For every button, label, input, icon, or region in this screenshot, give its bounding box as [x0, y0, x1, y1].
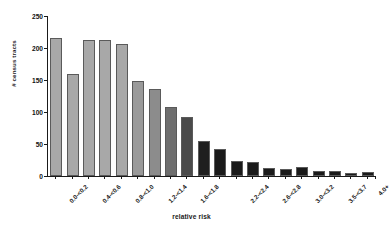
y-tick-label: 0 — [39, 173, 43, 180]
bar — [83, 40, 95, 176]
bar — [329, 171, 341, 176]
x-tick-mark — [318, 176, 319, 179]
y-axis-title: # census tracts — [10, 19, 17, 109]
bar — [247, 162, 259, 176]
bar — [67, 74, 79, 176]
x-tick-mark — [88, 176, 89, 179]
bar — [181, 117, 193, 176]
x-tick-mark — [268, 176, 269, 179]
x-tick-label: 1.2-<1.4 — [166, 183, 187, 204]
x-tick-label: 2.6-<2.8 — [281, 183, 302, 204]
x-tick-mark — [236, 176, 237, 179]
bar — [280, 169, 292, 176]
x-tick-mark — [219, 176, 220, 179]
y-tick-label: 250 — [32, 13, 43, 20]
y-tick-mark — [44, 16, 47, 17]
x-tick-mark — [350, 176, 351, 179]
x-tick-mark — [104, 176, 105, 179]
x-tick-label: 4.0+ — [376, 183, 390, 197]
x-tick-mark — [285, 176, 286, 179]
y-tick-mark — [44, 176, 47, 177]
x-tick-mark — [334, 176, 335, 179]
y-tick-mark — [44, 80, 47, 81]
x-tick-label: 2.2-<2.4 — [248, 183, 269, 204]
bar — [214, 149, 226, 176]
x-tick-label: 0.4-<0.6 — [101, 183, 122, 204]
x-tick-label: 0.8-<1.0 — [134, 183, 155, 204]
x-tick-mark — [186, 176, 187, 179]
bar — [362, 172, 374, 176]
x-tick-mark — [301, 176, 302, 179]
x-tick-mark — [252, 176, 253, 179]
bar — [198, 141, 210, 176]
bar — [149, 89, 161, 176]
y-tick-mark — [44, 144, 47, 145]
plot-area: 050100150200250 — [47, 16, 375, 176]
y-axis-line — [47, 16, 48, 176]
bar — [116, 44, 128, 176]
x-tick-mark — [170, 176, 171, 179]
bar — [263, 168, 275, 176]
x-tick-mark — [203, 176, 204, 179]
x-tick-mark — [121, 176, 122, 179]
x-tick-mark — [137, 176, 138, 179]
x-tick-mark — [375, 176, 376, 179]
bar — [313, 171, 325, 176]
bar — [165, 107, 177, 176]
bar — [99, 40, 111, 176]
y-tick-label: 50 — [36, 141, 43, 148]
x-tick-mark — [55, 176, 56, 179]
x-tick-label: 0.0-<0.2 — [68, 183, 89, 204]
y-tick-mark — [44, 48, 47, 49]
bar — [231, 161, 243, 176]
x-tick-label: 3.5-<3.7 — [347, 183, 368, 204]
x-axis-title: relative risk — [0, 213, 383, 220]
x-tick-mark — [154, 176, 155, 179]
y-tick-label: 100 — [32, 109, 43, 116]
bar — [50, 38, 62, 176]
x-tick-label: 1.6-<1.8 — [199, 183, 220, 204]
bar — [296, 167, 308, 176]
x-axis-line — [47, 176, 375, 177]
x-tick-label: 3.0-<3.2 — [314, 183, 335, 204]
x-tick-mark — [367, 176, 368, 179]
y-tick-label: 200 — [32, 45, 43, 52]
y-tick-mark — [44, 112, 47, 113]
x-tick-mark — [72, 176, 73, 179]
y-tick-label: 150 — [32, 77, 43, 84]
bar — [345, 173, 357, 176]
bar — [132, 81, 144, 176]
